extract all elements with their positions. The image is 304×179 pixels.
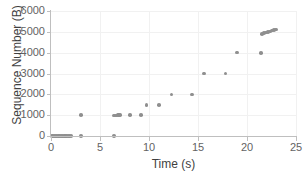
data-point	[157, 103, 161, 107]
data-point	[118, 113, 122, 117]
x-tick-label: 0	[48, 142, 54, 153]
data-point	[224, 72, 228, 76]
gridline-vertical	[100, 11, 101, 136]
x-tick-label: 25	[290, 142, 302, 153]
gridline-vertical	[247, 11, 248, 136]
data-point	[139, 113, 143, 117]
data-point	[145, 103, 149, 107]
y-tick-label: 5000	[21, 26, 45, 37]
x-tick-mark	[149, 137, 150, 141]
x-tick-mark	[247, 137, 248, 141]
y-tick-mark	[47, 94, 51, 95]
y-tick-mark	[47, 32, 51, 33]
y-tick-label: 3000	[21, 68, 45, 79]
gridline-vertical	[296, 11, 297, 136]
data-point	[202, 72, 206, 76]
x-axis-title: Time (s)	[51, 157, 296, 171]
gridline-vertical	[198, 11, 199, 136]
y-tick-mark	[47, 53, 51, 54]
scatter-chart: 0100020003000400050006000 Sequence Numbe…	[0, 0, 304, 179]
data-point	[274, 28, 278, 32]
x-axis-line	[51, 136, 297, 137]
y-tick-mark	[47, 11, 51, 12]
x-tick-label: 5	[97, 142, 103, 153]
plot-area	[51, 11, 296, 136]
gridline-vertical	[149, 11, 150, 136]
y-tick-mark	[47, 74, 51, 75]
data-point	[259, 51, 263, 55]
gridline-horizontal	[51, 74, 296, 75]
y-tick-label: 4000	[21, 47, 45, 58]
x-tick-mark	[198, 137, 199, 141]
gridline-horizontal	[51, 115, 296, 116]
y-axis-title: Sequence Number (B)	[10, 0, 24, 135]
y-tick-label: 1000	[21, 109, 45, 120]
y-tick-label: 6000	[21, 5, 45, 16]
y-tick-label: 0	[39, 130, 45, 141]
data-point	[235, 51, 239, 55]
x-tick-mark	[296, 137, 297, 141]
gridline-horizontal	[51, 32, 296, 33]
x-tick-label: 10	[143, 142, 155, 153]
data-point	[190, 93, 194, 97]
y-tick-mark	[47, 115, 51, 116]
gridline-horizontal	[51, 94, 296, 95]
x-tick-mark	[51, 137, 52, 141]
y-tick-label: 2000	[21, 88, 45, 99]
x-tick-label: 20	[241, 142, 253, 153]
data-point	[170, 93, 174, 97]
data-point	[79, 113, 83, 117]
data-point	[128, 113, 132, 117]
gridline-horizontal	[51, 11, 296, 12]
x-tick-label: 15	[192, 142, 204, 153]
x-tick-mark	[100, 137, 101, 141]
